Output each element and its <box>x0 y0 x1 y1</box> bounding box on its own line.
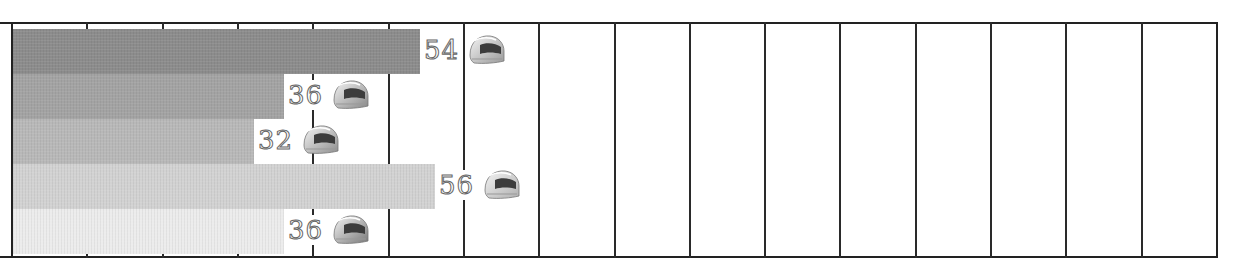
x-axis-tick <box>463 24 465 30</box>
x-axis-tick <box>388 250 390 256</box>
gridline <box>614 22 616 258</box>
helmet-bar-chart: 54 36 32 <box>0 0 1235 280</box>
racing-helmet-icon <box>330 78 370 114</box>
x-axis-tick <box>839 24 841 30</box>
gridline <box>839 22 841 258</box>
x-axis-tick <box>463 250 465 256</box>
y-axis <box>11 22 13 258</box>
gridline <box>689 22 691 258</box>
bar <box>13 209 284 254</box>
racing-helmet-icon <box>330 213 370 249</box>
x-axis-tick <box>1065 24 1067 30</box>
x-axis-tick <box>915 24 917 30</box>
x-axis-tick <box>990 24 992 30</box>
plot-frame-right <box>1216 22 1218 258</box>
gridline <box>915 22 917 258</box>
bar-value-label: 54 <box>422 35 461 65</box>
bar-value-label: 36 <box>286 215 325 245</box>
x-axis-tick <box>1141 250 1143 256</box>
x-axis-tick <box>538 250 540 256</box>
x-axis-tick <box>538 24 540 30</box>
x-axis-tick <box>839 250 841 256</box>
x-axis-tick <box>764 24 766 30</box>
bar <box>13 164 435 209</box>
x-axis-tick <box>1065 250 1067 256</box>
x-axis-tick <box>915 250 917 256</box>
x-axis-tick <box>614 250 616 256</box>
racing-helmet-icon <box>466 33 506 69</box>
x-axis-tick <box>689 250 691 256</box>
x-axis-tick <box>990 250 992 256</box>
bar-value-label: 32 <box>256 125 295 155</box>
bar <box>13 119 254 164</box>
x-axis-tick <box>614 24 616 30</box>
bar <box>13 74 284 119</box>
bar-value-label: 56 <box>437 170 476 200</box>
racing-helmet-icon <box>481 168 521 204</box>
x-axis-tick <box>764 250 766 256</box>
x-axis-tick <box>1141 24 1143 30</box>
gridline <box>1141 22 1143 258</box>
x-axis-tick <box>312 250 314 256</box>
gridline <box>463 22 465 258</box>
plot-frame-top <box>0 22 1218 24</box>
gridline <box>990 22 992 258</box>
gridline <box>764 22 766 258</box>
x-axis-tick <box>689 24 691 30</box>
bar <box>13 29 420 74</box>
gridline <box>538 22 540 258</box>
racing-helmet-icon <box>300 123 340 159</box>
gridline <box>1065 22 1067 258</box>
bar-value-label: 36 <box>286 80 325 110</box>
plot-frame-bottom <box>0 256 1218 258</box>
